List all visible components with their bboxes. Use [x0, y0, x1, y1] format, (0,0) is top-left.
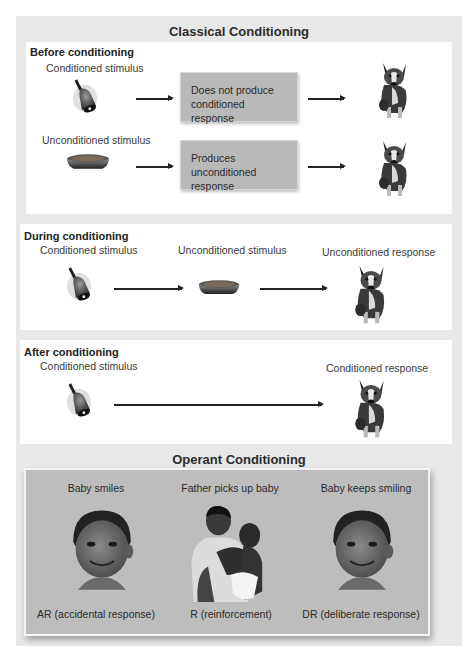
arrow: [114, 404, 322, 406]
father-holding-baby-icon: [184, 500, 280, 604]
box-text: Does not produce: [191, 83, 287, 97]
conditioned-stimulus-label: Conditioned stimulus: [40, 244, 137, 256]
baby-face-icon: [326, 504, 398, 594]
dog-icon: [350, 376, 392, 440]
unconditioned-stimulus-label: Unconditioned stimulus: [178, 244, 287, 256]
classical-conditioning-title: Classical Conditioning: [16, 24, 462, 39]
conditioned-response-label: Conditioned response: [326, 362, 428, 374]
father-picks-up-label: Father picks up baby: [170, 482, 290, 494]
diagram-frame: Classical Conditioning Before conditioni…: [16, 16, 462, 646]
arrow: [260, 288, 326, 290]
during-conditioning-panel: During conditioning Conditioned stimulus…: [20, 224, 452, 330]
operant-conditioning-panel: Baby smiles Father picks up baby Baby ke…: [24, 468, 430, 636]
arrow: [308, 98, 344, 100]
unconditioned-stimulus-label: Unconditioned stimulus: [42, 134, 151, 146]
conditioned-stimulus-label: Conditioned stimulus: [40, 360, 137, 372]
bell-icon: [62, 264, 96, 304]
after-conditioning-title: After conditioning: [24, 346, 119, 358]
dog-icon: [350, 262, 392, 326]
food-bowl-icon: [64, 152, 112, 172]
arrow: [136, 166, 172, 168]
dog-icon: [374, 138, 414, 198]
arrow: [136, 98, 172, 100]
baby-keeps-smiling-label: Baby keeps smiling: [306, 482, 426, 494]
baby-smiles-label: Baby smiles: [46, 482, 146, 494]
during-conditioning-title: During conditioning: [24, 230, 128, 242]
reinforcement-label: R (reinforcement): [176, 608, 286, 620]
arrow: [308, 166, 344, 168]
box-text: Produces unconditioned: [191, 151, 287, 179]
box-text: conditioned response: [191, 97, 287, 125]
box-text: response: [191, 179, 287, 193]
baby-face-icon: [66, 504, 138, 594]
no-response-box: Does not produce conditioned response: [180, 72, 298, 122]
food-bowl-icon: [196, 278, 242, 297]
after-conditioning-panel: After conditioning Conditioned stimulus …: [20, 340, 452, 444]
deliberate-response-label: DR (deliberate response): [296, 608, 426, 620]
before-conditioning-title: Before conditioning: [30, 46, 134, 58]
before-conditioning-panel: Before conditioning Conditioned stimulus…: [26, 42, 452, 214]
operant-conditioning-title: Operant Conditioning: [16, 452, 462, 467]
accidental-response-label: AR (accidental response): [36, 608, 156, 620]
unconditioned-response-box: Produces unconditioned response: [180, 140, 298, 190]
bell-icon: [62, 380, 96, 420]
conditioned-stimulus-label: Conditioned stimulus: [46, 62, 143, 74]
dog-icon: [374, 60, 414, 120]
bell-icon: [68, 76, 102, 116]
unconditioned-response-label: Unconditioned response: [322, 246, 435, 258]
arrow: [114, 288, 182, 290]
